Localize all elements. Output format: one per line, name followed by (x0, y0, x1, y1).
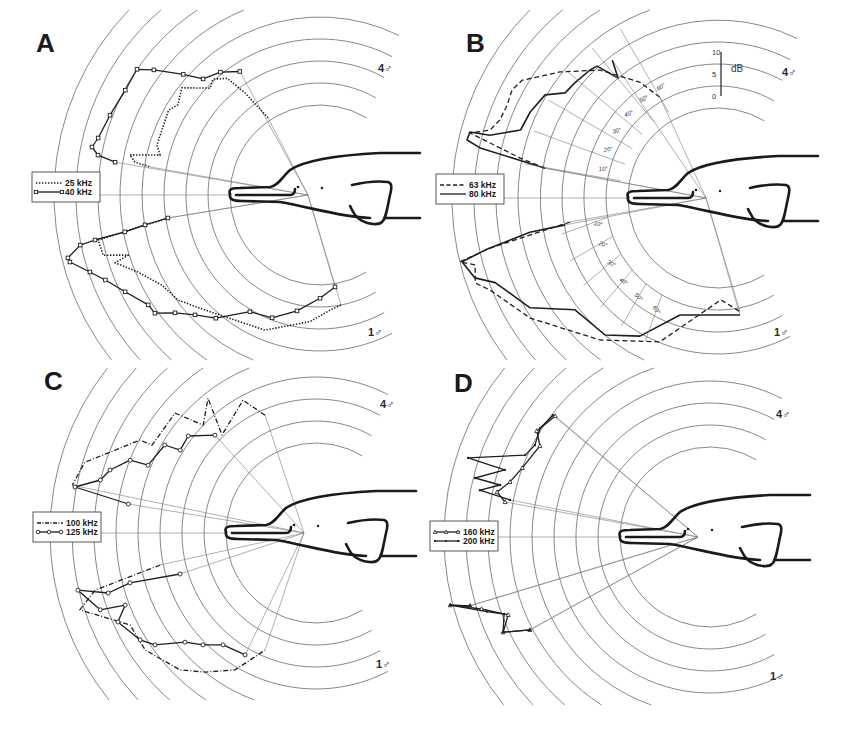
panel-letter-a: A (36, 28, 55, 58)
legend-label: 200 kHz (463, 536, 495, 546)
angle-label-upper: 60° (655, 82, 666, 92)
data-point-square (238, 70, 242, 74)
data-point-triangle (538, 444, 542, 448)
legend-marker-square (34, 190, 37, 193)
data-point-circle (201, 643, 205, 647)
data-point-circle (73, 485, 77, 489)
legend: 25 kHz40 kHz (32, 172, 100, 202)
data-point-square (108, 113, 112, 117)
legend-marker-circle (59, 530, 63, 534)
angle-guide-lower (601, 270, 633, 307)
data-point-circle (98, 478, 102, 482)
data-point-dot (469, 605, 471, 607)
bearing-ray (553, 415, 698, 537)
legend-marker-dot (457, 540, 459, 542)
data-point-dot (502, 631, 504, 633)
data-point-circle (186, 434, 190, 438)
bearing-ray (265, 533, 304, 650)
data-point-circle (108, 468, 112, 472)
bearing-ray (545, 168, 706, 198)
bearing-ray (265, 415, 304, 533)
data-point-square (201, 77, 205, 81)
data-point-circle (146, 463, 150, 467)
range-ring-25db (510, 368, 603, 705)
panel-d: D4♂1♂160 kHz200 kHz (430, 368, 810, 705)
series-line-25-khz-lower (98, 218, 341, 330)
data-point-square (90, 145, 94, 149)
data-point-circle (106, 591, 110, 595)
data-point-square (193, 313, 197, 317)
angle-label-upper: 50° (638, 94, 649, 104)
bearing-ray (565, 198, 706, 225)
series-line-125-khz-upper (75, 435, 215, 504)
range-ring-25db (116, 368, 206, 700)
data-point-circle (76, 588, 80, 592)
dolphin-ear-dot-icon (321, 187, 323, 189)
angle-label-lower: 30° (606, 259, 617, 269)
series-line-80-khz-upper (467, 60, 618, 168)
data-point-square (318, 296, 322, 300)
db-tick-label: 5 (712, 70, 716, 79)
label-1-male: 1♂ (376, 658, 390, 670)
series-line-25-khz-upper (130, 78, 268, 166)
data-point-square (214, 316, 218, 320)
data-point-circle (98, 608, 102, 612)
data-point-square (68, 260, 72, 264)
data-point-square (124, 88, 128, 92)
dolphin-eye-icon (297, 186, 300, 189)
angle-label-upper: 20° (602, 146, 614, 154)
data-point-circle (128, 458, 132, 462)
data-point-dot (509, 499, 511, 501)
data-point-square (88, 270, 92, 274)
data-point-circle (213, 433, 217, 437)
data-point-square (104, 278, 108, 282)
data-point-circle (138, 638, 142, 642)
data-point-square (152, 68, 156, 72)
angle-label-upper: 10° (598, 165, 608, 172)
angle-guide-lower (570, 236, 612, 260)
dolphin-ear-dot-icon (719, 190, 721, 192)
legend-marker-circle (47, 530, 51, 534)
data-point-square (123, 230, 127, 234)
data-point-dot (504, 469, 506, 471)
data-point-square (270, 316, 274, 320)
angle-guide-lower (584, 254, 622, 285)
legend-marker-square (60, 190, 63, 193)
bearing-ray (215, 435, 304, 533)
data-point-square (96, 153, 100, 157)
bearing-ray (240, 72, 308, 196)
bearing-ray (660, 97, 706, 198)
dolphin-mouth-line (232, 527, 291, 533)
dolphin-eye-icon (687, 528, 690, 531)
data-point-square (66, 256, 70, 260)
data-point-circle (126, 502, 130, 506)
data-point-circle (178, 572, 182, 576)
data-point-square (93, 238, 97, 242)
data-point-dot (503, 613, 505, 615)
bearing-ray (612, 60, 706, 198)
angle-guide-lower (645, 295, 662, 341)
data-point-circle (221, 643, 225, 647)
data-point-circle (123, 603, 127, 607)
data-point-square (146, 303, 150, 307)
legend-label: 80 kHz (469, 189, 496, 199)
legend: 100 kHz125 kHz (33, 512, 101, 542)
series-line-100-khz-lower (80, 565, 265, 672)
data-point-circle (178, 448, 182, 452)
dolphin-mouth-line (236, 189, 295, 195)
data-point-square (96, 136, 100, 140)
bearing-ray (168, 195, 308, 218)
series-line-40-khz-upper (92, 69, 240, 162)
data-point-square (295, 309, 299, 313)
data-point-dot (552, 414, 554, 416)
panel-a: A4♂1♂25 kHz40 kHz (32, 10, 420, 360)
range-ring-30db (94, 368, 170, 700)
db-tick-label: 10 (712, 48, 720, 57)
dolphin-mouth-line (626, 531, 685, 537)
label-1-male: 1♂ (774, 326, 788, 338)
db-scale: 0510dB (712, 48, 744, 101)
bearing-ray (510, 500, 698, 537)
data-point-square (153, 311, 157, 315)
data-point-square (181, 73, 185, 77)
data-point-triangle (506, 613, 510, 617)
